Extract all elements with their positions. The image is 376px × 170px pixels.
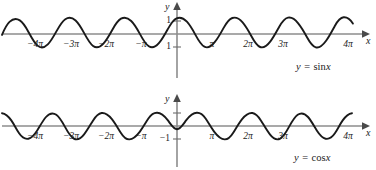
- cosine-x-tick-label--4pi: −4π: [27, 132, 43, 142]
- cosine-y-axis-label: y: [165, 94, 170, 104]
- sine-x-tick-label--2pi: −2π: [98, 40, 114, 50]
- sine-y-axis-label: y: [165, 2, 170, 12]
- sine-y-tick-label-neg1: 1: [166, 42, 171, 52]
- cosine-x-tick-label-3pi: 3π: [278, 132, 288, 142]
- sine-equation-fn: sin: [313, 61, 326, 72]
- cosine-equation-fn: cos: [311, 152, 325, 163]
- cosine-y-tick-label-neg1: −1: [160, 134, 170, 144]
- cosine-x-tick-label-2pi: 2π: [243, 132, 253, 142]
- sine-plot: −4π −3π −2π −π π 2π 3π 4π 1 1 y x y = si…: [0, 0, 376, 85]
- cosine-x-tick-label--3pi: −3π: [63, 132, 79, 142]
- cosine-plot: −4π −3π −2π −π π 2π 3π 4π −1 y x y = cos…: [0, 85, 376, 170]
- cosine-x-tick-label-4pi: 4π: [343, 132, 353, 142]
- sine-x-tick-label--4pi: −4π: [27, 40, 43, 50]
- sine-x-axis-label: x: [366, 36, 371, 46]
- sine-equation-eq: =: [301, 61, 314, 72]
- sine-x-tick-label-3pi: 3π: [278, 40, 288, 50]
- sine-y-axis-arrow: [173, 2, 181, 10]
- sine-x-tick-label--3pi: −3π: [63, 40, 79, 50]
- sine-equation-arg: x: [326, 61, 331, 72]
- cosine-equation-eq: =: [299, 152, 312, 163]
- trig-graphs-figure: −4π −3π −2π −π π 2π 3π 4π 1 1 y x y = si…: [0, 0, 376, 170]
- cosine-x-tick-label-pi: π: [210, 132, 215, 142]
- cosine-x-tick-label--2pi: −2π: [98, 132, 114, 142]
- cosine-equation-arg: x: [326, 152, 331, 163]
- sine-x-tick-label-2pi: 2π: [243, 40, 253, 50]
- sine-x-tick-label--pi: −π: [135, 40, 146, 50]
- sine-y-tick-label-1: 1: [166, 16, 171, 26]
- cosine-y-axis-arrow: [173, 94, 181, 102]
- cosine-x-axis-label: x: [366, 128, 371, 138]
- sine-equation-label: y = sinx: [296, 62, 331, 73]
- sine-x-tick-label-4pi: 4π: [343, 40, 353, 50]
- cosine-x-tick-label--pi: −π: [135, 132, 146, 142]
- sine-x-tick-label-pi: π: [210, 40, 215, 50]
- cosine-equation-label: y = cosx: [294, 153, 330, 164]
